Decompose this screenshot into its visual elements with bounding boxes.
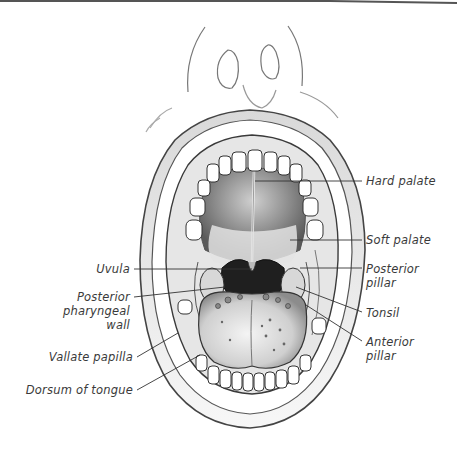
label-hard-palate: Hard palate bbox=[366, 174, 436, 188]
label-anterior-pillar: Anterior pillar bbox=[366, 335, 414, 363]
top-border-line bbox=[0, 1, 457, 3]
label-posterior-pharyngeal-wall: Posterior pharyngeal wall bbox=[63, 290, 130, 332]
label-dorsum-of-tongue-text: Dorsum of tongue bbox=[26, 383, 133, 397]
label-soft-palate-text: Soft palate bbox=[366, 233, 431, 247]
label-ppw-line3: wall bbox=[63, 318, 130, 332]
label-vallate-papilla: Vallate papilla bbox=[49, 350, 133, 364]
label-tonsil: Tonsil bbox=[366, 306, 400, 320]
label-anterior-pillar-line2: pillar bbox=[366, 349, 414, 363]
label-tonsil-text: Tonsil bbox=[366, 306, 400, 320]
label-hard-palate-text: Hard palate bbox=[366, 174, 436, 188]
anatomy-figure: Hard palate Soft palate Posterior pillar… bbox=[0, 0, 457, 460]
label-ppw-line1: Posterior bbox=[63, 290, 130, 304]
label-posterior-pillar-line1: Posterior bbox=[366, 262, 419, 276]
label-uvula-text: Uvula bbox=[96, 262, 130, 276]
label-ppw-line2: pharyngeal bbox=[63, 304, 130, 318]
label-dorsum-of-tongue: Dorsum of tongue bbox=[26, 383, 133, 397]
label-posterior-pillar-line2: pillar bbox=[366, 276, 419, 290]
label-posterior-pillar: Posterior pillar bbox=[366, 262, 419, 290]
label-uvula: Uvula bbox=[96, 262, 130, 276]
label-anterior-pillar-line1: Anterior bbox=[366, 335, 414, 349]
label-vallate-papilla-text: Vallate papilla bbox=[49, 350, 133, 364]
cavity-drawing bbox=[166, 135, 338, 394]
label-soft-palate: Soft palate bbox=[366, 233, 431, 247]
